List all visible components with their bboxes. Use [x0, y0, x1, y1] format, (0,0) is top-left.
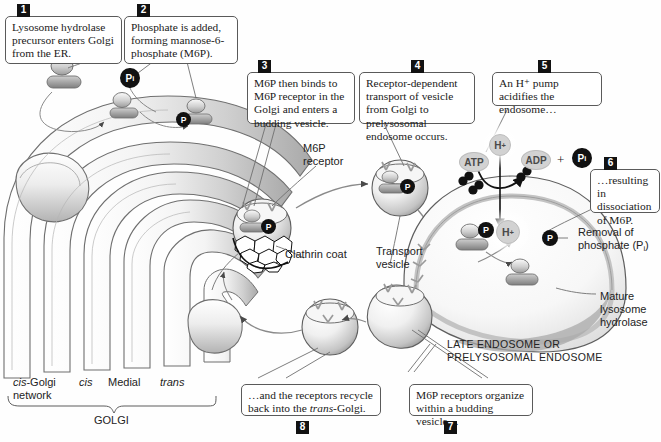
pi-letter: P: [126, 73, 133, 84]
h-letter-2: H: [502, 226, 510, 238]
callout-step-4: Receptor-dependent transport of vesicle …: [359, 72, 475, 124]
step-badge-8: 8: [296, 421, 309, 434]
h-letter-1: H: [494, 140, 501, 151]
callout-step-7: M6P receptors organize within a budding …: [409, 384, 533, 416]
label-medial: Medial: [108, 376, 140, 389]
label-late-endosome-line1: LATE ENDOSOME OR: [447, 338, 560, 350]
label-mature-line3: hydrolase: [600, 316, 648, 328]
label-cis-golgi-rest: -Golgi: [26, 376, 55, 388]
step-badge-1: 1: [17, 4, 30, 17]
h-superscript-1: +: [501, 141, 505, 150]
callout-step-1: Lysosome hydrolase precursor enters Golg…: [5, 16, 122, 64]
h-superscript-2: +: [510, 228, 514, 237]
callout-step-4-text: Receptor-dependent transport of vesicle …: [366, 77, 458, 142]
callout-step-3: M6P then binds to M6P receptor in the Go…: [247, 72, 355, 124]
label-cis-italic: cis: [13, 376, 26, 388]
label-late-endosome: LATE ENDOSOME OR PRELYSOSOMAL ENDOSOME: [447, 338, 603, 364]
callout-step-1-text: Lysosome hydrolase precursor enters Golg…: [12, 21, 114, 59]
step-badge-3: 3: [258, 60, 271, 73]
atp-label: ATP: [464, 157, 483, 168]
label-m6p-receptor: M6P receptor: [303, 142, 343, 168]
trans-golgi-italic: trans: [310, 402, 333, 414]
step-badge-2: 2: [137, 4, 150, 17]
phosphate-chip-endosome-bound: P: [478, 222, 494, 238]
label-cis-text: cis: [79, 376, 92, 388]
label-cis: cis: [79, 376, 92, 389]
label-removal-line2: phosphate (P: [578, 239, 643, 251]
adp-label: ADP: [525, 155, 546, 166]
proton-chip-inside: H+: [496, 220, 520, 244]
callout-step-5: An H⁺ pump acidifies the endosome…: [492, 72, 602, 106]
callout-step-2: Phosphate is added, forming mannose-6-ph…: [124, 16, 238, 64]
label-removal-line1: Removal of: [578, 226, 634, 238]
phosphate-chip-pi: Pi: [120, 68, 140, 88]
adp-chip: ADP: [521, 150, 551, 170]
phosphate-chip-transport-vesicle: P: [400, 179, 415, 194]
callout-step-3-text: M6P then binds to M6P receptor in the Go…: [254, 77, 344, 129]
label-cis-golgi-network-line2: network: [13, 389, 52, 401]
step-badge-6: 6: [604, 157, 617, 170]
label-transport-vesicle-line2: vesicle: [376, 258, 410, 270]
label-clathrin-coat: Clathrin coat: [285, 248, 347, 261]
figure-canvas: 1 Lysosome hydrolase precursor enters Go…: [0, 0, 661, 442]
label-trans-text: trans: [160, 376, 184, 388]
free-phosphate-chip: Pi: [572, 148, 592, 168]
label-m6p-receptor-line2: receptor: [303, 155, 343, 167]
step-badge-5: 5: [538, 60, 551, 73]
label-golgi: GOLGI: [94, 414, 129, 427]
label-late-endosome-line2: PRELYSOSOMAL ENDOSOME: [447, 351, 603, 363]
p-letter-4: P: [483, 225, 489, 235]
phosphate-chip-clathrin-vesicle: P: [261, 219, 276, 234]
pi-subscript-2: i: [584, 154, 586, 163]
step-badge-7: 7: [444, 421, 457, 434]
pi-subscript: i: [132, 74, 134, 83]
label-trans: trans: [160, 376, 184, 389]
label-cis-golgi-network: cis-Golgi network: [13, 376, 56, 402]
label-m6p-receptor-line1: M6P: [303, 142, 326, 154]
callout-step-2-text: Phosphate is added, forming mannose-6-ph…: [131, 21, 224, 59]
label-removal-of-phosphate: Removal of phosphate (Pi): [578, 226, 649, 255]
callout-step-5-text: An H⁺ pump acidifies the endosome…: [499, 77, 559, 115]
atp-chip: ATP: [459, 152, 489, 172]
pi-letter-2: P: [578, 153, 585, 164]
p-letter-5: P: [547, 233, 553, 243]
proton-chip-outside: H+: [489, 134, 511, 156]
label-transport-vesicle: Transport vesicle: [376, 245, 423, 271]
label-removal-paren: ): [645, 239, 649, 251]
label-mature-line1: Mature: [600, 290, 634, 302]
phosphate-chip-golgi-cargo: P: [176, 112, 191, 127]
phosphate-chip-released: P: [542, 230, 558, 246]
p-letter-1: P: [181, 115, 187, 125]
label-mature-line2: lysosome: [600, 303, 646, 315]
p-letter-2: P: [266, 222, 272, 232]
p-letter-3: P: [405, 182, 411, 192]
step-badge-4: 4: [411, 60, 424, 73]
callout-step-8: …and the receptors recycle back into the…: [241, 384, 381, 416]
plus-sign: +: [557, 152, 564, 168]
callout-step-6: …resulting in dissociation of M6P.: [590, 169, 660, 213]
label-mature-lysosome-hydrolase: Mature lysosome hydrolase: [600, 290, 648, 329]
label-transport-vesicle-line1: Transport: [376, 245, 423, 257]
diagram-artwork: [0, 0, 661, 442]
